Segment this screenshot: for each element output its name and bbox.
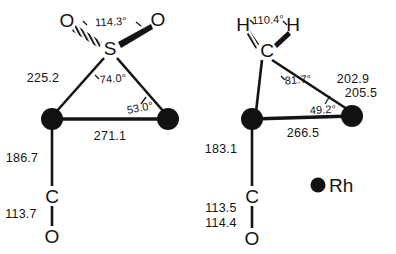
distance-s-rh-left: 225.2 bbox=[27, 72, 59, 85]
atom-label-h-right: H bbox=[286, 15, 300, 34]
legend-rh-dot-icon bbox=[311, 178, 326, 193]
angle-rh-c-rh: 81.7° bbox=[284, 74, 311, 87]
atom-label-o-left: O bbox=[60, 11, 75, 30]
distance-c-o-right-2: 114.4 bbox=[205, 217, 236, 230]
atom-label-c-carbonyl-left: C bbox=[45, 187, 59, 206]
atom-label-h-left: H bbox=[236, 15, 250, 34]
angle-c-rh-rh: 49.2° bbox=[310, 104, 337, 116]
legend-rh-label: Rh bbox=[329, 176, 353, 195]
distance-rh-rh-left: 271.1 bbox=[94, 130, 126, 143]
atom-label-c-carbonyl-right: C bbox=[245, 187, 259, 206]
atom-label-s: S bbox=[104, 39, 117, 58]
atom-label-o-carbonyl-right: O bbox=[245, 229, 260, 248]
distance-c-o-left: 113.7 bbox=[5, 208, 36, 221]
angle-rh-s-rh: 74.0° bbox=[99, 73, 126, 86]
angle-s-rh-rh: 53.0° bbox=[126, 100, 154, 116]
atom-label-o-carbonyl-left: O bbox=[45, 227, 60, 246]
distance-c-o-right-1: 113.5 bbox=[205, 202, 236, 215]
distance-rh-rh-right: 266.5 bbox=[287, 127, 319, 140]
angle-h-c-h: 110.4° bbox=[252, 14, 284, 27]
atom-label-c-bridge: C bbox=[260, 41, 274, 60]
distance-rh-c-right: 183.1 bbox=[205, 143, 237, 156]
distance-rh-c-left: 186.7 bbox=[6, 152, 38, 165]
atom-label-o-right: O bbox=[151, 10, 166, 29]
label-layer: O O S C O 225.2 271.1 186.7 113.7 114.3°… bbox=[0, 0, 396, 254]
molecular-structure-figure: O O S C O 225.2 271.1 186.7 113.7 114.3°… bbox=[0, 0, 396, 254]
angle-o-s-o: 114.3° bbox=[95, 16, 127, 29]
distance-c-rh-right-2: 205.5 bbox=[345, 87, 377, 100]
distance-c-rh-right-1: 202.9 bbox=[337, 73, 369, 86]
